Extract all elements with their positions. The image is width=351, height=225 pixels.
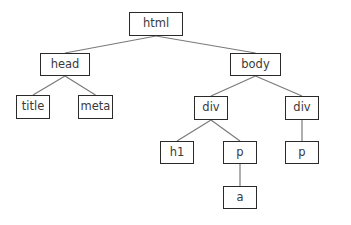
edge-html-body [156,36,256,53]
dom-tree-diagram: html head body title meta div div h1 p p… [0,0,351,225]
node-meta: meta [78,95,113,119]
edge-div1-p1 [211,120,240,141]
node-title: title [16,95,50,119]
node-h1: h1 [160,141,194,164]
edge-html-head [65,36,156,53]
node-p-right: p [285,141,319,164]
edge-body-div2 [256,76,303,96]
edge-body-div1 [211,76,256,96]
node-html: html [129,12,183,36]
edge-head-title [33,76,65,95]
node-a: a [223,186,257,209]
node-p-left: p [223,141,257,164]
node-div-right: div [285,96,319,120]
edge-head-meta [65,76,96,95]
edge-div1-h1 [177,120,211,141]
node-div-left: div [194,96,228,120]
node-body: body [230,53,281,76]
node-head: head [40,53,90,76]
